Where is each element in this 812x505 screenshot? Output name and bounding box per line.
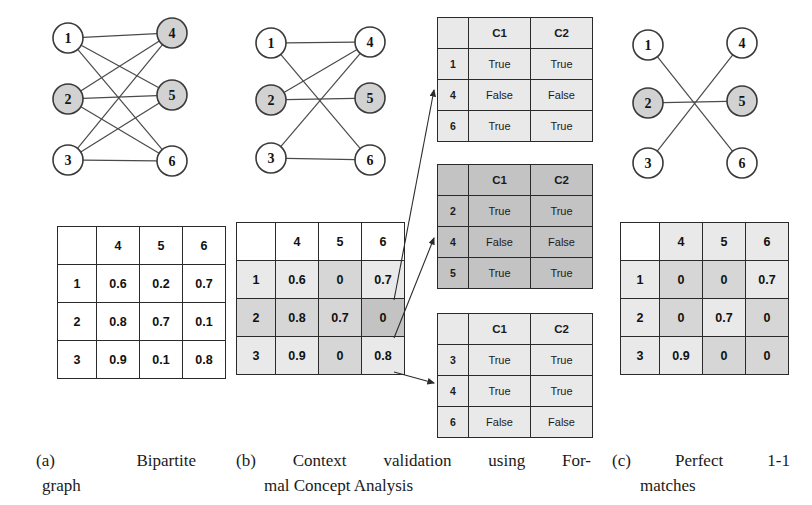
node-label-4: 4	[169, 26, 176, 41]
caption-b-label: (b)	[236, 448, 256, 473]
node-1: 1	[53, 23, 83, 53]
matrix-cell-1-5: 0.2	[140, 265, 183, 303]
concept-table-2-wrapper: C1C22TrueTrue4FalseFalse5TrueTrue	[437, 164, 593, 289]
node-label-4: 4	[739, 36, 746, 51]
table-row: 30.900.8	[237, 337, 405, 375]
concept-cell-6-C1: True	[469, 111, 531, 142]
matrix-cell-3-6: 0.8	[362, 337, 405, 375]
matrix-header-row: 456	[58, 227, 226, 265]
table-row: 1000.7	[621, 261, 789, 299]
caption-b-word3: using	[488, 448, 525, 473]
similarity-matrix-thresholded: 45610.600.720.80.7030.900.8	[236, 222, 405, 375]
matrix-cell-1-6: 0.7	[746, 261, 789, 299]
concept-cell-3-C1: True	[469, 345, 531, 376]
edge-3-5	[81, 103, 160, 152]
node-4: 4	[157, 18, 187, 48]
matrix-row-header-2: 2	[237, 299, 276, 337]
caption-c: (c) Perfect 1-1 matches	[612, 448, 812, 498]
caption-c-line2: matches	[612, 473, 812, 498]
matrix-cell-2-4: 0.8	[97, 303, 140, 341]
caption-b-line2: mal Concept Analysis	[236, 473, 606, 498]
matrix-col-header-6: 6	[183, 227, 226, 265]
concept-cell-4-C2: False	[531, 227, 593, 258]
caption-a-word1: Bipartite	[137, 448, 196, 473]
node-label-3: 3	[645, 156, 652, 171]
concept-col-header-C1: C1	[469, 18, 531, 49]
matrix-cell-3-6: 0.8	[183, 341, 226, 379]
concept-table-3-wrapper: C1C23TrueTrue4TrueTrue6FalseFalse	[437, 313, 593, 438]
concept-row-header-6: 6	[438, 111, 469, 142]
caption-b-word4: For-	[562, 448, 591, 473]
matrix-cell-2-5: 0.7	[319, 299, 362, 337]
matrix-col-header-6: 6	[362, 223, 405, 261]
figure-root: 123456 45610.60.20.720.80.70.130.90.10.8…	[0, 0, 812, 505]
panel-a-graph: 123456	[0, 0, 230, 200]
matrix-header-row: 456	[237, 223, 405, 261]
matrix-cell-1-6: 0.7	[183, 265, 226, 303]
node-3: 3	[633, 148, 663, 178]
table-row: 6TrueTrue	[438, 111, 593, 142]
concept-cell-6-C2: True	[531, 111, 593, 142]
concept-header-row: C1C2	[438, 165, 593, 196]
concept-cell-3-C2: True	[531, 345, 593, 376]
bipartite-graph-pruned-svg: 123456	[230, 0, 415, 200]
matrix-row-header-1: 1	[621, 261, 660, 299]
table-row: 5TrueTrue	[438, 258, 593, 289]
table-row: 2TrueTrue	[438, 196, 593, 227]
edge-1-4	[83, 34, 157, 38]
node-label-6: 6	[367, 153, 374, 168]
matrix-row-header-3: 3	[58, 341, 97, 379]
edge-3-4	[78, 45, 163, 149]
matrix-row-header-3: 3	[621, 337, 660, 375]
caption-a-label: (a)	[36, 448, 55, 473]
matrix-cell-2-5: 0.7	[140, 303, 183, 341]
concept-corner-cell	[438, 18, 469, 49]
concept-col-header-C2: C2	[531, 314, 593, 345]
node-4: 4	[355, 27, 385, 57]
matrix-cell-3-4: 0.9	[660, 337, 703, 375]
table-row: 1TrueTrue	[438, 49, 593, 80]
matrix-row-header-2: 2	[58, 303, 97, 341]
caption-a: (a) Bipartite graph	[36, 448, 231, 498]
node-label-5: 5	[169, 88, 176, 103]
node-6: 6	[157, 146, 187, 176]
node-label-3: 3	[65, 153, 72, 168]
table-row: 10.600.7	[237, 261, 405, 299]
concept-row-header-4: 4	[438, 80, 469, 111]
caption-c-label: (c)	[612, 448, 631, 473]
table-row: 20.80.70	[237, 299, 405, 337]
caption-b-word1: Context	[293, 448, 347, 473]
matrix-col-header-5: 5	[703, 223, 746, 261]
concept-row-header-2: 2	[438, 196, 469, 227]
matrix-cell-3-5: 0	[319, 337, 362, 375]
concept-cell-1-C2: True	[531, 49, 593, 80]
matrix-header-row: 456	[621, 223, 789, 261]
similarity-matrix-full: 45610.60.20.720.80.70.130.90.10.8	[57, 226, 226, 379]
edge-1-6	[78, 49, 163, 149]
node-6: 6	[727, 148, 757, 178]
table-row: 200.70	[621, 299, 789, 337]
matrix-col-header-5: 5	[319, 223, 362, 261]
node-label-5: 5	[739, 94, 746, 109]
matrix-row-header-3: 3	[237, 337, 276, 375]
node-label-1: 1	[645, 38, 652, 53]
table-row: 4TrueTrue	[438, 376, 593, 407]
node-label-1: 1	[65, 31, 72, 46]
concept-cell-2-C2: True	[531, 196, 593, 227]
node-label-6: 6	[169, 154, 176, 169]
concept-col-header-C2: C2	[531, 18, 593, 49]
node-label-2: 2	[268, 93, 275, 108]
node-label-2: 2	[65, 92, 72, 107]
matrix-cell-3-4: 0.9	[276, 337, 319, 375]
concept-row-header-3: 3	[438, 345, 469, 376]
concept-table-3: C1C23TrueTrue4TrueTrue6FalseFalse	[437, 313, 593, 438]
concept-cell-5-C1: True	[469, 258, 531, 289]
table-row: 10.60.20.7	[58, 265, 226, 303]
concept-cell-4-C2: True	[531, 376, 593, 407]
caption-b: (b) Context validation using For- mal Co…	[236, 448, 606, 498]
table-row: 4FalseFalse	[438, 227, 593, 258]
matrix-col-header-6: 6	[746, 223, 789, 261]
concept-cell-6-C2: False	[531, 407, 593, 438]
matrix-row-header-1: 1	[58, 265, 97, 303]
matrix-cell-1-4: 0.6	[97, 265, 140, 303]
